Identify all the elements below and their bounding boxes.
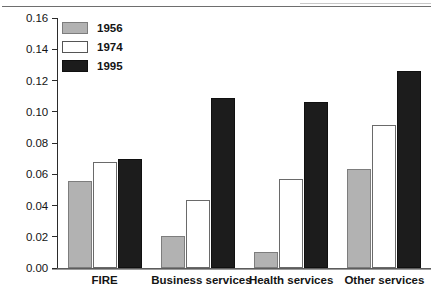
bar <box>397 71 421 268</box>
y-axis-tick-label: 0.08 <box>26 137 48 149</box>
y-axis-tick: 0.06 <box>0 168 57 180</box>
y-axis-tick: 0.00 <box>0 262 57 274</box>
y-axis-tick-label: 0.06 <box>26 168 48 180</box>
y-axis-tick-mark <box>52 205 57 206</box>
y-axis-tick-mark <box>52 80 57 81</box>
y-axis-tick: 0.14 <box>0 43 57 55</box>
bar <box>93 162 117 268</box>
x-axis-category-label: Business services <box>151 273 244 287</box>
y-axis-tick-label: 0.02 <box>26 231 48 243</box>
x-axis-line-shadow <box>52 269 431 270</box>
y-axis-tick-label: 0.14 <box>26 43 48 55</box>
page-rule-top-faint <box>300 3 431 4</box>
y-axis-tick-mark <box>52 174 57 175</box>
x-axis-category-labels: FIREBusiness servicesHealth servicesOthe… <box>58 273 431 293</box>
legend: 195619741995 <box>62 21 172 78</box>
y-axis-tick: 0.10 <box>0 106 57 118</box>
y-axis-tick-mark <box>52 18 57 19</box>
y-axis-tick: 0.04 <box>0 200 57 212</box>
legend-swatch <box>62 41 88 53</box>
legend-swatch <box>62 22 88 34</box>
bar <box>186 200 210 268</box>
y-axis-tick-label: 0.04 <box>26 200 48 212</box>
legend-label: 1974 <box>97 40 123 54</box>
bar <box>254 252 278 268</box>
y-axis-tick: 0.08 <box>0 137 57 149</box>
bar-chart: 0.000.020.040.060.080.100.120.140.16 FIR… <box>0 0 433 305</box>
y-axis-tick-mark <box>52 49 57 50</box>
page-rule-top <box>2 6 431 7</box>
legend-item: 1995 <box>62 59 172 73</box>
y-axis-tick: 0.16 <box>0 12 57 24</box>
x-axis-category-label: Other services <box>338 273 431 287</box>
bar <box>372 125 396 268</box>
y-axis-tick: 0.02 <box>0 231 57 243</box>
bar <box>161 236 185 268</box>
legend-label: 1956 <box>97 21 123 35</box>
y-axis-tick-mark <box>52 111 57 112</box>
y-axis-tick-mark <box>52 236 57 237</box>
x-axis-category-label: Health services <box>245 273 338 287</box>
bar <box>118 159 142 268</box>
y-axis-tick-mark <box>52 268 57 269</box>
bar <box>68 181 92 269</box>
legend-item: 1974 <box>62 40 172 54</box>
y-axis-tick-label: 0.16 <box>26 12 48 24</box>
y-axis-tick-label: 0.12 <box>26 75 48 87</box>
bar <box>304 102 328 268</box>
y-axis-tick-mark <box>52 143 57 144</box>
y-axis-tick: 0.12 <box>0 75 57 87</box>
y-axis-tick-label: 0.00 <box>26 262 48 274</box>
legend-item: 1956 <box>62 21 172 35</box>
legend-swatch <box>62 60 88 72</box>
bar <box>347 169 371 268</box>
x-axis-category-label: FIRE <box>58 273 151 287</box>
legend-label: 1995 <box>97 59 123 73</box>
y-axis-tick-label: 0.10 <box>26 106 48 118</box>
bar <box>279 179 303 268</box>
bar <box>211 98 235 268</box>
